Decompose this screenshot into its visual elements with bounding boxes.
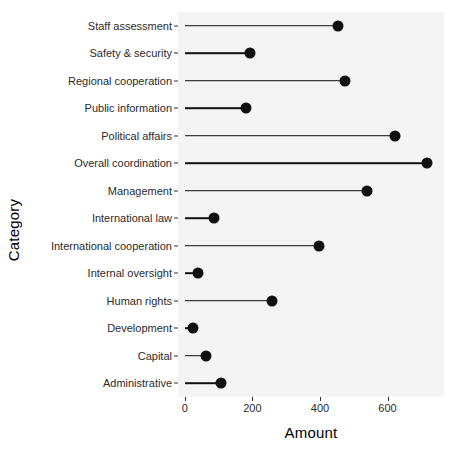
lollipop-stem xyxy=(185,135,396,137)
y-axis-tick-label: Regional cooperation xyxy=(10,75,172,86)
lollipop-stem xyxy=(185,162,427,164)
x-axis-tick-label: 0 xyxy=(182,403,188,414)
x-axis-tick-label: 600 xyxy=(378,403,396,414)
y-axis-tick-label: Safety & security xyxy=(10,48,172,59)
lollipop-dot xyxy=(390,130,401,141)
lollipop-stem xyxy=(185,245,319,247)
lollipop-dot xyxy=(244,48,255,59)
lollipop-dot xyxy=(209,213,220,224)
y-axis-tick-label: Public information xyxy=(10,103,172,114)
y-axis-tick-label: Overall coordination xyxy=(10,158,172,169)
y-axis-tick-label: Human rights xyxy=(10,295,172,306)
lollipop-stem xyxy=(185,300,272,302)
lollipop-stem xyxy=(185,107,246,109)
y-axis-tick-label: International cooperation xyxy=(10,240,172,251)
lollipop-dot xyxy=(201,350,212,361)
lollipop-dot xyxy=(339,75,350,86)
lollipop-dot xyxy=(361,185,372,196)
plot-panel xyxy=(178,12,444,397)
y-axis-tick-label: Internal oversight xyxy=(10,268,172,279)
x-axis-title: Amount xyxy=(178,424,444,441)
lollipop-stem xyxy=(185,52,250,54)
x-axis-tick-mark xyxy=(388,397,389,401)
y-axis-tick-label: Administrative xyxy=(10,378,172,389)
y-axis-tick-label: Political affairs xyxy=(10,130,172,141)
lollipop-dot xyxy=(266,295,277,306)
x-axis-tick-mark xyxy=(185,397,186,401)
lollipop-dot xyxy=(215,378,226,389)
y-axis-tick-label: Capital xyxy=(10,350,172,361)
y-axis-tick-label: Staff assessment xyxy=(10,20,172,31)
y-axis-title: Category xyxy=(0,0,26,460)
y-axis-tick-label: Management xyxy=(10,185,172,196)
y-axis-tick-label: International law xyxy=(10,213,172,224)
lollipop-dot xyxy=(313,240,324,251)
y-axis-tick-label: Development xyxy=(10,323,172,334)
lollipop-dot xyxy=(192,268,203,279)
lollipop-chart: Category Staff assessmentSafety & securi… xyxy=(0,0,468,460)
lollipop-stem xyxy=(185,190,367,192)
lollipop-dot xyxy=(332,20,343,31)
x-axis-tick-label: 400 xyxy=(311,403,329,414)
lollipop-stem xyxy=(185,80,345,82)
lollipop-stem xyxy=(185,25,338,27)
lollipop-dot xyxy=(187,323,198,334)
x-axis-tick-mark xyxy=(320,397,321,401)
x-axis-tick-label: 200 xyxy=(243,403,261,414)
lollipop-dot xyxy=(240,103,251,114)
lollipop-dot xyxy=(421,158,432,169)
x-axis-tick-mark xyxy=(252,397,253,401)
